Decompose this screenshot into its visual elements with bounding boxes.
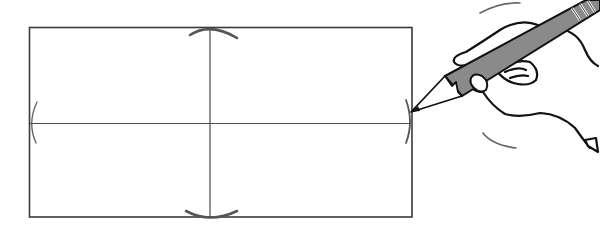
- rectangle-construction-illustration: [0, 0, 600, 234]
- motion-mark-top: [480, 3, 520, 13]
- rectangle-outline: [30, 28, 413, 218]
- pencil-icon: [411, 0, 600, 112]
- motion-mark-bottom: [483, 133, 516, 148]
- left-arc: [32, 102, 37, 143]
- right-arc: [406, 100, 410, 143]
- top-arc: [190, 29, 237, 38]
- diagram-canvas: [0, 0, 600, 234]
